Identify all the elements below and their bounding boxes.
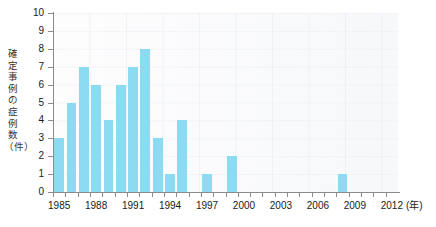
y-axis-title-char: 定: [4, 60, 21, 72]
y-axis-title-char: 症: [4, 106, 21, 118]
y-axis-tick: [48, 67, 53, 68]
x-axis-tick: [287, 193, 288, 197]
y-axis-tick-label: 5: [22, 98, 44, 108]
y-axis-tick: [48, 31, 53, 32]
x-axis-tick: [226, 193, 227, 197]
y-axis-title-char: 数: [4, 129, 21, 141]
y-axis-title-char: 事: [4, 71, 21, 83]
x-axis-tick: [386, 193, 387, 197]
y-axis-tick-label: 2: [22, 151, 44, 161]
x-axis-tick-label: 2003: [261, 200, 301, 212]
y-axis-tick-label: 10: [22, 8, 44, 18]
bar: [54, 138, 64, 192]
bar: [128, 67, 138, 192]
x-axis-tick-label: 2009: [335, 200, 375, 212]
x-axis-tick: [349, 193, 350, 197]
bar: [227, 156, 237, 192]
bar: [104, 120, 114, 192]
x-axis-tick-label: 1988: [76, 200, 116, 212]
y-axis-tick-label: 4: [22, 115, 44, 125]
bar: [79, 67, 89, 192]
x-axis-tick: [361, 193, 362, 197]
x-axis-tick: [336, 193, 337, 197]
x-axis-tick: [250, 193, 251, 197]
y-axis-tick: [48, 174, 53, 175]
y-axis-tick: [48, 103, 53, 104]
x-axis-tick: [176, 193, 177, 197]
x-axis-tick: [115, 193, 116, 197]
x-axis-tick: [312, 193, 313, 197]
x-axis-tick-label: 2006: [298, 200, 338, 212]
x-axis-tick: [53, 193, 54, 197]
bar: [67, 103, 77, 193]
y-axis-tick-label: 0: [22, 187, 44, 197]
x-axis-tick: [102, 193, 103, 197]
y-axis-tick-label: 3: [22, 133, 44, 143]
y-axis-tick: [48, 49, 53, 50]
y-axis-tick: [48, 120, 53, 121]
y-axis-line: [53, 12, 54, 193]
x-axis-tick: [164, 193, 165, 197]
y-axis-tick-label: 8: [22, 44, 44, 54]
bar-chart: 確定事例の症例数（件） 012345678910 198519881991199…: [0, 0, 436, 227]
x-axis-tick: [262, 193, 263, 197]
bar: [116, 85, 126, 192]
x-axis-tick: [238, 193, 239, 197]
x-axis-tick: [78, 193, 79, 197]
y-axis-tick: [48, 13, 53, 14]
y-axis-tick-label: 9: [22, 26, 44, 36]
x-axis-tick: [189, 193, 190, 197]
x-axis-tick-label: 1991: [113, 200, 153, 212]
y-axis-title-char: 確: [4, 48, 21, 60]
x-axis-tick: [152, 193, 153, 197]
x-axis-tick: [127, 193, 128, 197]
bar: [153, 138, 163, 192]
bar: [140, 49, 150, 192]
x-axis-tick: [299, 193, 300, 197]
x-axis-tick-label: 2000: [224, 200, 264, 212]
x-axis-tick: [90, 193, 91, 197]
y-axis-title-char: 例: [4, 83, 21, 95]
y-axis-tick: [48, 138, 53, 139]
y-axis-title-char: 例: [4, 118, 21, 130]
y-axis-tick-label: 6: [22, 80, 44, 90]
y-axis-tick: [48, 85, 53, 86]
y-axis-title-char: （件）: [4, 141, 21, 153]
x-axis-tick: [373, 193, 374, 197]
x-axis-tick: [275, 193, 276, 197]
plot-area: [53, 13, 398, 192]
x-axis-tick-label: 1997: [187, 200, 227, 212]
y-axis-tick-label: 1: [22, 169, 44, 179]
x-axis-tick: [213, 193, 214, 197]
x-axis-tick: [324, 193, 325, 197]
x-axis-unit-label: (年): [406, 200, 423, 212]
x-axis-tick: [65, 193, 66, 197]
bar: [177, 120, 187, 192]
x-axis-tick-label: 1994: [150, 200, 190, 212]
bar: [165, 174, 175, 192]
x-axis-tick: [139, 193, 140, 197]
x-axis-tick-label: 1985: [39, 200, 79, 212]
y-axis-tick: [48, 156, 53, 157]
x-axis-tick: [201, 193, 202, 197]
bar: [202, 174, 212, 192]
bar: [338, 174, 348, 192]
y-axis-tick-label: 7: [22, 62, 44, 72]
bar: [91, 85, 101, 192]
y-axis-title: 確定事例の症例数（件）: [4, 48, 21, 152]
y-axis-title-char: の: [4, 94, 21, 106]
